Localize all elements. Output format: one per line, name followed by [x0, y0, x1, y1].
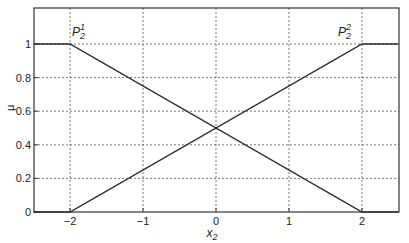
x-tick-label: 1: [286, 215, 292, 227]
y-tick-label: 1: [25, 38, 31, 50]
series-annotation: P12: [72, 22, 85, 41]
x-axis-ticks: −2−1012: [64, 208, 365, 227]
y-tick-label: 0.8: [16, 72, 31, 84]
y-tick-label: 0: [25, 206, 31, 218]
x-tick-label: −1: [137, 215, 150, 227]
y-axis-ticks: 00.20.40.60.81: [16, 38, 38, 218]
x-axis-label: x2: [205, 226, 217, 242]
y-tick-label: 0.4: [16, 139, 31, 151]
membership-function-chart: −2−1012 00.20.40.60.81 P12P22 μ x2: [0, 0, 409, 243]
series-annotation: P22: [338, 22, 351, 41]
annotations: P12P22: [72, 22, 351, 41]
x-tick-label: 0: [213, 215, 219, 227]
y-tick-label: 0.6: [16, 105, 31, 117]
x-tick-label: −2: [64, 215, 77, 227]
x-tick-label: 2: [359, 215, 365, 227]
y-axis-label: μ: [4, 105, 16, 111]
y-tick-label: 0.2: [16, 172, 31, 184]
